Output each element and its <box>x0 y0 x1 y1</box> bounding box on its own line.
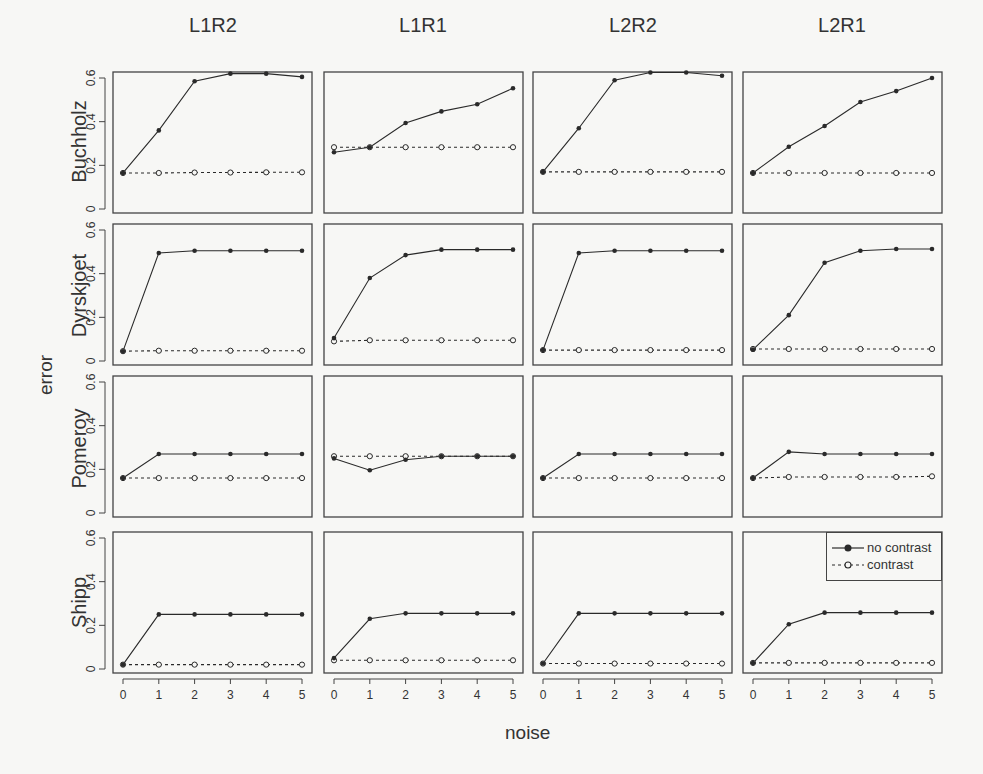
point-no-contrast <box>439 454 444 459</box>
point-no-contrast <box>300 452 305 457</box>
panel-dyrskjoet-l2r1 <box>743 224 942 365</box>
panel-buchholz-l2r1 <box>743 72 942 213</box>
point-no-contrast <box>787 144 792 149</box>
point-no-contrast <box>439 247 444 252</box>
point-no-contrast <box>894 610 899 615</box>
point-contrast <box>719 661 724 666</box>
legend-label-contrast: contrast <box>867 557 913 573</box>
point-no-contrast <box>332 150 337 155</box>
point-no-contrast <box>612 248 617 253</box>
point-contrast <box>156 662 161 667</box>
point-no-contrast <box>684 70 689 75</box>
panel-buchholz-l1r1 <box>324 72 523 213</box>
point-no-contrast <box>121 349 126 354</box>
point-contrast <box>367 454 372 459</box>
point-no-contrast <box>228 452 233 457</box>
point-contrast <box>822 170 827 175</box>
point-contrast <box>192 662 197 667</box>
point-contrast <box>719 475 724 480</box>
panel-buchholz-l2r2 <box>533 70 732 213</box>
point-contrast <box>684 169 689 174</box>
x-tick-label: 5 <box>299 688 306 702</box>
point-no-contrast <box>858 452 863 457</box>
point-contrast <box>264 662 269 667</box>
point-contrast <box>858 346 863 351</box>
point-no-contrast <box>541 170 546 175</box>
panel-dyrskjoet-l1r2: 00.20.40.6 <box>84 221 312 365</box>
legend-label-no-contrast: no contrast <box>867 540 931 556</box>
column-label-l1r2: L1R2 <box>113 14 313 37</box>
x-tick-label: 4 <box>683 688 690 702</box>
point-no-contrast <box>822 610 827 615</box>
point-contrast <box>612 475 617 480</box>
point-contrast <box>894 170 899 175</box>
point-contrast <box>510 658 515 663</box>
point-contrast <box>439 658 444 663</box>
point-no-contrast <box>858 100 863 105</box>
x-tick-label: 0 <box>750 688 757 702</box>
point-contrast <box>403 145 408 150</box>
x-tick-label: 0 <box>331 688 338 702</box>
row-label-shipp: Shipp <box>68 533 91 673</box>
point-no-contrast <box>403 253 408 258</box>
point-no-contrast <box>511 247 516 252</box>
chart-grid: 00.20.40.600.20.40.600.20.40.600.20.40.6… <box>0 0 983 774</box>
panel-pomeroy-l2r2 <box>533 376 732 517</box>
point-no-contrast <box>228 248 233 253</box>
point-no-contrast <box>541 348 546 353</box>
point-no-contrast <box>475 247 480 252</box>
point-no-contrast <box>192 248 197 253</box>
point-no-contrast <box>332 656 337 661</box>
filled-circle-line-icon <box>830 540 866 556</box>
x-tick-label: 3 <box>857 688 864 702</box>
point-no-contrast <box>930 610 935 615</box>
point-no-contrast <box>858 610 863 615</box>
point-contrast <box>192 475 197 480</box>
x-tick-label: 2 <box>191 688 198 702</box>
x-tick-label: 4 <box>893 688 900 702</box>
point-no-contrast <box>403 611 408 616</box>
point-no-contrast <box>368 276 373 281</box>
point-contrast <box>403 338 408 343</box>
point-contrast <box>475 658 480 663</box>
x-tick-label: 1 <box>155 688 162 702</box>
point-contrast <box>299 170 304 175</box>
point-contrast <box>576 347 581 352</box>
point-no-contrast <box>121 476 126 481</box>
point-no-contrast <box>511 454 516 459</box>
point-no-contrast <box>368 616 373 621</box>
x-tick-label: 0 <box>120 688 127 702</box>
point-contrast <box>612 169 617 174</box>
x-tick-label: 5 <box>929 688 936 702</box>
open-circle-dashed-line-icon <box>830 557 866 573</box>
point-contrast <box>439 145 444 150</box>
point-contrast <box>228 662 233 667</box>
point-no-contrast <box>648 452 653 457</box>
point-contrast <box>929 474 934 479</box>
point-no-contrast <box>300 612 305 617</box>
point-contrast <box>648 347 653 352</box>
point-no-contrast <box>720 452 725 457</box>
point-no-contrast <box>264 248 269 253</box>
panel-pomeroy-l2r1 <box>743 376 942 517</box>
point-contrast <box>367 338 372 343</box>
point-no-contrast <box>648 611 653 616</box>
point-contrast <box>822 474 827 479</box>
point-no-contrast <box>192 79 197 84</box>
point-contrast <box>929 660 934 665</box>
point-no-contrast <box>121 171 126 176</box>
panel-buchholz-l1r2: 00.20.40.6 <box>84 69 312 213</box>
point-no-contrast <box>684 452 689 457</box>
x-tick-label: 5 <box>510 688 517 702</box>
point-no-contrast <box>751 347 756 352</box>
point-no-contrast <box>157 612 162 617</box>
x-tick-label: 1 <box>575 688 582 702</box>
x-tick-label: 4 <box>263 688 270 702</box>
point-no-contrast <box>228 71 233 76</box>
x-tick-label: 1 <box>366 688 373 702</box>
point-contrast <box>156 475 161 480</box>
point-no-contrast <box>577 126 582 131</box>
point-no-contrast <box>930 452 935 457</box>
panel-dyrskjoet-l2r2 <box>533 224 732 365</box>
point-contrast <box>648 475 653 480</box>
